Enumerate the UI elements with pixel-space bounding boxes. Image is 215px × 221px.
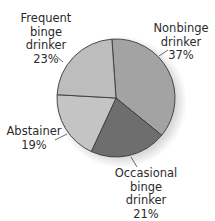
label-occasional: Occasional binge drinker 21% <box>110 167 182 220</box>
label-occasional-line3: drinker <box>110 194 182 208</box>
label-abstainer-line1: Abstainer <box>4 125 64 139</box>
label-nonbinge-value: 37% <box>150 49 212 63</box>
label-frequent-line2: binge <box>14 26 78 40</box>
label-occasional-line2: binge <box>110 181 182 195</box>
label-nonbinge-line1: Nonbinge <box>150 22 212 36</box>
label-nonbinge-line2: drinker <box>150 36 212 50</box>
label-abstainer-value: 19% <box>4 139 64 153</box>
label-occasional-value: 21% <box>110 208 182 221</box>
label-frequent: Frequent binge drinker 23% <box>14 12 78 66</box>
label-frequent-line1: Frequent <box>14 12 78 26</box>
label-occasional-line1: Occasional <box>110 167 182 181</box>
label-abstainer: Abstainer 19% <box>4 125 64 152</box>
label-nonbinge: Nonbinge drinker 37% <box>150 22 212 63</box>
label-frequent-line3: drinker <box>14 39 78 53</box>
label-frequent-value: 23% <box>14 53 78 67</box>
